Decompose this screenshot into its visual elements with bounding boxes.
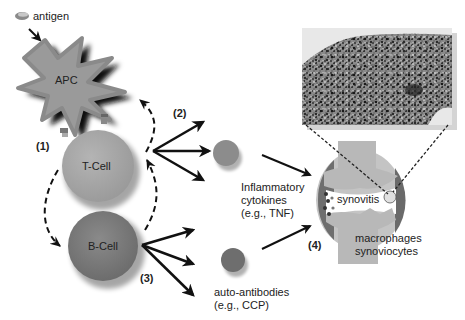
step-2-label: (2) bbox=[173, 107, 187, 119]
t-cell-output-arrows bbox=[153, 122, 209, 180]
b-cell-output-arrows bbox=[142, 230, 193, 295]
cells-label-line1: macrophages bbox=[355, 232, 422, 244]
autoantibody-to-joint-arrow bbox=[262, 226, 310, 249]
cytokines-label-line1: Inflammatory bbox=[241, 181, 305, 193]
antigen-arrow bbox=[29, 29, 40, 40]
t-cell-label: T-Cell bbox=[82, 160, 111, 172]
ra-pathogenesis-diagram: antigen APC T-Cell (1) B-Cell (3) (2) In… bbox=[0, 0, 465, 320]
autoantibodies-label-line1: auto-antibodies bbox=[214, 286, 290, 298]
dashed-arrow-t-to-apc bbox=[140, 100, 154, 152]
antigen-icon bbox=[15, 12, 29, 20]
micrograph-image bbox=[302, 28, 457, 130]
antigen-label: antigen bbox=[33, 10, 69, 22]
cytokine-molecule bbox=[213, 140, 239, 166]
autoantibodies-label-line2: (e.g., CCP) bbox=[214, 299, 269, 311]
cytokines-label-line2: cytokines bbox=[241, 194, 287, 206]
step-3-label: (3) bbox=[140, 272, 154, 284]
b-cell-label: B-Cell bbox=[88, 240, 118, 252]
autoantibody-molecule bbox=[221, 248, 245, 272]
step-4-label: (4) bbox=[308, 239, 322, 251]
synovitis-label: synovitis bbox=[337, 193, 380, 205]
step-1-label: (1) bbox=[36, 140, 50, 152]
cells-label-line2: synoviocytes bbox=[355, 245, 418, 257]
cytokines-label-line3: (e.g., TNF) bbox=[241, 207, 294, 219]
apc-cell bbox=[18, 38, 125, 135]
dashed-arrow-t-to-b bbox=[45, 170, 60, 246]
cytokine-to-joint-arrow bbox=[262, 155, 310, 175]
apc-label: APC bbox=[55, 74, 78, 86]
dashed-arrow-b-to-t bbox=[145, 160, 157, 230]
